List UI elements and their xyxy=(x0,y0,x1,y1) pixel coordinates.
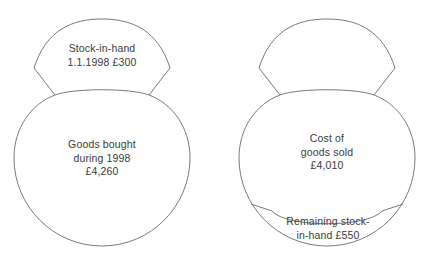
left-figure-divider xyxy=(55,90,149,95)
diagram-canvas: Stock-in-hand 1.1.1998 £300 Goods bought… xyxy=(0,0,429,269)
right-figure-divider xyxy=(280,90,374,95)
label-stock-in-hand: Stock-in-hand 1.1.1998 £300 xyxy=(28,42,176,69)
label-remaining-stock-in-hand: Remaining stock- in-hand £550 xyxy=(252,215,404,242)
label-goods-bought: Goods bought during 1998 £4,260 xyxy=(32,138,172,179)
label-cost-of-goods-sold: Cost of goods sold £4,010 xyxy=(258,132,396,173)
